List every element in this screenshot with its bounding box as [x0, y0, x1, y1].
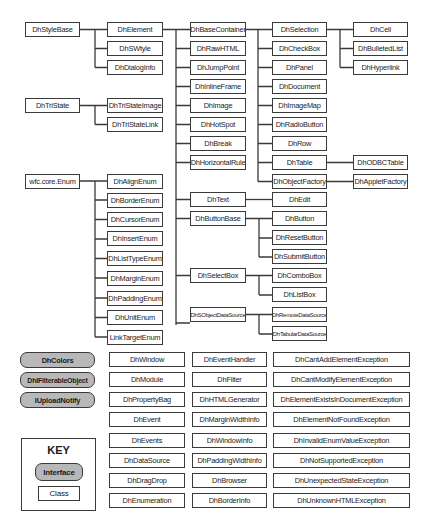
class-dhcantmodifyelementexception: DhCantModifyElementException [273, 372, 410, 387]
class-dhrow: DhRow [272, 136, 327, 151]
class-dhdatasource: DhDataSource [109, 453, 185, 468]
class-dhselectbox: DhSelectBox [190, 268, 246, 283]
class-dhbuttonbase: DhButtonBase [190, 211, 246, 226]
class-dhenumeration: DhEnumeration [109, 493, 185, 508]
class-dhpropertybag: DhPropertyBag [109, 392, 185, 407]
class-dhmodule: DhModule [109, 372, 185, 387]
class-dhresetbutton: DhResetButton [272, 230, 327, 245]
class-dhpaddingwidthinfo: DhPaddingWidthInfo [192, 453, 267, 468]
legend-class: Class [38, 486, 80, 501]
class-dhimage: DhImage [190, 98, 246, 113]
class-dhjumppoint: DhJumpPoint [190, 60, 246, 75]
class-dhhyperlink: DhHyperlink [353, 60, 408, 75]
class-dhelement: DhElement [107, 22, 163, 37]
class-dhfilter: DhFilter [192, 372, 267, 387]
class-dhodbctable: DhODBCTable [353, 155, 408, 170]
class-dhcursorenum: DhCursorEnum [107, 212, 163, 227]
class-dhremotedatasource: DhRemoteDataSource [272, 307, 327, 322]
class-dhmarginwidthinfo: DhMarginWidthInfo [192, 412, 267, 427]
class-dhsubmitbutton: DhSubmitButton [272, 249, 327, 264]
class-dhelementnotfoundexception: DhElementNotFoundException [273, 412, 410, 427]
class-dhmarginenum: DhMarginEnum [107, 271, 163, 286]
interface-dhifilterableobject: DhIFilterableObject [20, 372, 95, 388]
class-dhwindow: DhWindow [109, 352, 185, 367]
class-dhtable: DhTable [272, 155, 327, 170]
class-dhhotspot: DhHotSpot [190, 117, 246, 132]
class-dhtext: DhText [190, 192, 246, 207]
class-dhdialoginfo: DhDialogInfo [107, 60, 163, 75]
class-dhselection: DhSelection [272, 22, 327, 37]
class-dhdocument: DhDocument [272, 79, 327, 94]
class-dhinsertenum: DhInsertEnum [107, 231, 163, 246]
class-dhedit: DhEdit [272, 192, 327, 207]
class-dhbulletedlist: DhBulletedList [353, 41, 408, 56]
class-dhevents: DhEvents [109, 433, 185, 448]
class-dhlisttypeenum: DhListTypeEnum [107, 251, 163, 266]
class-dhdragdrop: DhDragDrop [109, 473, 185, 488]
class-dhnotsupportedexception: DhNotSupportedException [273, 453, 410, 468]
class-dhhorizontalrule: DhHorizontalRule [190, 155, 246, 170]
class-dhbrowser: DhBrowser [192, 473, 267, 488]
class-dhtabulardatasource: DhTabularDataSource [272, 326, 327, 341]
class-dhcell: DhCell [353, 22, 408, 37]
interface-iuploadnotify: IUploadNotify [20, 392, 95, 408]
class-dhrawhtml: DhRawHTML [190, 41, 246, 56]
class-dhwindowinfo: DhWindowInfo [192, 433, 267, 448]
class-dhcheckbox: DhCheckBox [272, 41, 327, 56]
class-dhinlineframe: DhInlineFrame [190, 79, 246, 94]
class-dhbasecontainer: DhBaseContainer [190, 22, 246, 37]
class-dhcombobox: DhComboBox [272, 268, 327, 283]
legend-title: KEY [22, 444, 95, 456]
class-dhevent: DhEvent [109, 412, 185, 427]
class-dhalignenum: DhAlignEnum [107, 174, 163, 189]
class-dhelementexistsindocumentexception: DhElementExistsInDocumentException [273, 392, 410, 407]
class-dhunexpectedstateexception: DhUnexpectedStateException [273, 473, 410, 488]
class-wfc-core-enum: wfc.core.Enum [25, 174, 80, 189]
class-dhborderenum: DhBorderEnum [107, 193, 163, 208]
class-dhobjectfactory: DhObjectFactory [272, 174, 327, 189]
class-dhsobjectdatasource: DhSObjectDataSource [190, 307, 246, 322]
class-dhstylebase: DhStyleBase [25, 22, 80, 37]
class-dhswtyle: DhSWtyle [107, 41, 163, 56]
class-dhhtmlgenerator: DhHTMLGenerator [192, 392, 267, 407]
class-dhcantaddelementexception: DhCantAddElementException [273, 352, 410, 367]
class-dhinvalidenumvalueexception: DhInvalidEnumValueException [273, 433, 410, 448]
class-dhpaddingenum: DhPaddingEnum [107, 291, 163, 306]
class-dhunknownhtmlexception: DhUnknownHTMLException [273, 493, 410, 508]
class-dhtristatelink: DhTriStateLink [107, 117, 163, 132]
interface-dhcolors: DhColors [20, 352, 95, 368]
class-dhbreak: DhBreak [190, 136, 246, 151]
class-dhlistbox: DhListBox [272, 287, 327, 302]
class-dhimagemap: DhImageMap [272, 98, 327, 113]
class-dhtristate: DhTriState [25, 98, 80, 113]
class-hierarchy-diagram: DhStyleBase DhTriState wfc.core.Enum DhE… [0, 0, 430, 526]
class-dhtristateimage: DhTriStateImage [107, 98, 163, 113]
class-dhpanel: DhPanel [272, 60, 327, 75]
class-linktargetenum: LinkTargetEnum [107, 330, 163, 345]
class-dhappletfactory: DhAppletFactory [353, 174, 408, 189]
class-dhunitenum: DhUnitEnum [107, 310, 163, 325]
class-dhradiobutton: DhRadioButton [272, 117, 327, 132]
class-dhbutton: DhButton [272, 211, 327, 226]
class-dhborderinfo: DhBorderInfo [192, 493, 267, 508]
legend-interface: Interface [35, 463, 83, 481]
class-dheventhandler: DhEventHandler [192, 352, 267, 367]
